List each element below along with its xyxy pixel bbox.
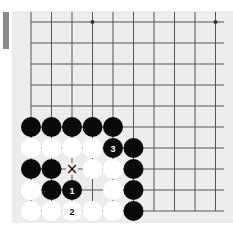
- white-stone[interactable]: [103, 159, 123, 179]
- black-stone[interactable]: [124, 159, 144, 179]
- white-stone[interactable]: [62, 138, 82, 158]
- move-number: 2: [69, 207, 74, 217]
- black-stone[interactable]: [83, 117, 103, 137]
- black-stone[interactable]: [124, 201, 144, 221]
- board-grid[interactable]: 312×: [0, 0, 233, 234]
- cross-mark-icon: ×: [66, 160, 79, 178]
- white-stone[interactable]: [103, 180, 123, 200]
- black-stone[interactable]: [21, 117, 41, 137]
- white-stone[interactable]: [21, 180, 41, 200]
- white-stone[interactable]: [83, 201, 103, 221]
- black-stone[interactable]: [62, 117, 82, 137]
- white-stone[interactable]: [83, 138, 103, 158]
- star-point: [214, 20, 218, 24]
- black-stone[interactable]: 3: [103, 138, 123, 158]
- white-stone[interactable]: [83, 159, 103, 179]
- black-stone[interactable]: [124, 180, 144, 200]
- white-stone[interactable]: [103, 201, 123, 221]
- white-stone[interactable]: [42, 138, 62, 158]
- star-point: [91, 20, 95, 24]
- black-stone[interactable]: [21, 159, 41, 179]
- black-stone[interactable]: [42, 159, 62, 179]
- white-stone[interactable]: [21, 201, 41, 221]
- white-stone[interactable]: 2: [62, 201, 82, 221]
- move-number: 3: [110, 144, 115, 154]
- black-stone[interactable]: [124, 138, 144, 158]
- black-stone[interactable]: [42, 180, 62, 200]
- white-stone[interactable]: [42, 201, 62, 221]
- black-stone[interactable]: [103, 117, 123, 137]
- move-number: 1: [69, 186, 74, 196]
- white-stone[interactable]: [21, 138, 41, 158]
- black-stone[interactable]: 1: [62, 180, 82, 200]
- black-stone[interactable]: [42, 117, 62, 137]
